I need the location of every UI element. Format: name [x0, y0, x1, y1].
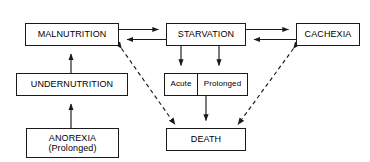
node-prolonged-label: Prolonged: [204, 80, 241, 89]
node-anorexia[interactable]: ANOREXIA (Prolonged): [26, 128, 119, 158]
node-undernutrition[interactable]: UNDERNUTRITION: [16, 73, 128, 96]
node-anorexia-line2: (Prolonged): [48, 143, 96, 153]
node-undernutrition-label: UNDERNUTRITION: [31, 79, 113, 89]
node-cachexia-label: CACHEXIA: [305, 29, 352, 39]
node-acute-label: Acute: [171, 80, 192, 89]
node-starvation[interactable]: STARVATION: [166, 23, 246, 46]
node-acute[interactable]: Acute: [164, 73, 198, 96]
diagram-canvas: MALNUTRITION STARVATION CACHEXIA UNDERNU…: [0, 0, 370, 162]
node-prolonged[interactable]: Prolonged: [197, 73, 248, 96]
node-starvation-label: STARVATION: [178, 29, 234, 39]
node-anorexia-label: ANOREXIA (Prolonged): [48, 133, 96, 154]
node-cachexia[interactable]: CACHEXIA: [296, 23, 360, 46]
node-malnutrition[interactable]: MALNUTRITION: [25, 23, 119, 46]
node-anorexia-line1: ANOREXIA: [49, 133, 96, 143]
node-death[interactable]: DEATH: [166, 128, 246, 151]
node-malnutrition-label: MALNUTRITION: [38, 29, 107, 39]
node-death-label: DEATH: [191, 134, 221, 144]
